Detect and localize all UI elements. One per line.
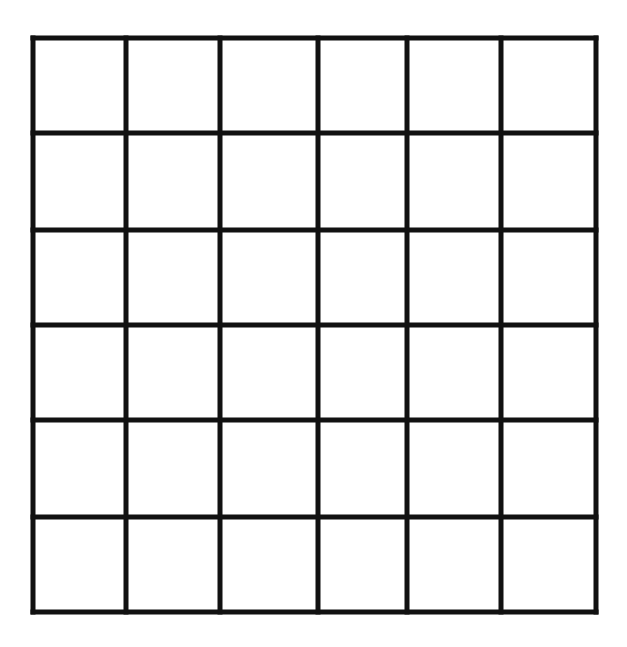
grid-cell-r4-c6 <box>501 325 596 420</box>
grid-cell-r5-c6 <box>501 420 596 517</box>
grid-cell-r5-c3 <box>220 420 318 517</box>
grid-cell-r4-c3 <box>220 325 318 420</box>
grid-cell-r2-c1 <box>33 133 126 230</box>
grid-cell-r6-c2 <box>126 517 220 612</box>
grid-cell-r3-c2 <box>126 230 220 325</box>
grid-cell-r3-c1 <box>33 230 126 325</box>
grid-cell-r5-c2 <box>126 420 220 517</box>
grid-cell-r3-c4 <box>318 230 407 325</box>
grid-cell-r1-c4 <box>318 38 407 133</box>
grid-cell-r1-c1 <box>33 38 126 133</box>
grid-6x6 <box>0 0 627 647</box>
grid-cell-r2-c4 <box>318 133 407 230</box>
grid-cell-r5-c1 <box>33 420 126 517</box>
grid-cell-r1-c6 <box>501 38 596 133</box>
grid-cell-r1-c3 <box>220 38 318 133</box>
grid-cell-r4-c5 <box>407 325 501 420</box>
grid-cell-r6-c4 <box>318 517 407 612</box>
grid-cell-r4-c1 <box>33 325 126 420</box>
grid-cell-r3-c6 <box>501 230 596 325</box>
grid-cell-r2-c5 <box>407 133 501 230</box>
grid-cell-r2-c3 <box>220 133 318 230</box>
grid-cell-r6-c3 <box>220 517 318 612</box>
grid-cell-r6-c1 <box>33 517 126 612</box>
grid-cell-r2-c6 <box>501 133 596 230</box>
grid-cell-r3-c3 <box>220 230 318 325</box>
grid-cell-r5-c4 <box>318 420 407 517</box>
grid-cell-r4-c4 <box>318 325 407 420</box>
grid-cell-r2-c2 <box>126 133 220 230</box>
grid-cell-r4-c2 <box>126 325 220 420</box>
grid-cell-r1-c2 <box>126 38 220 133</box>
grid-cell-r1-c5 <box>407 38 501 133</box>
grid-cell-r6-c6 <box>501 517 596 612</box>
grid-cell-r3-c5 <box>407 230 501 325</box>
grid-cell-r5-c5 <box>407 420 501 517</box>
grid-cell-r6-c5 <box>407 517 501 612</box>
